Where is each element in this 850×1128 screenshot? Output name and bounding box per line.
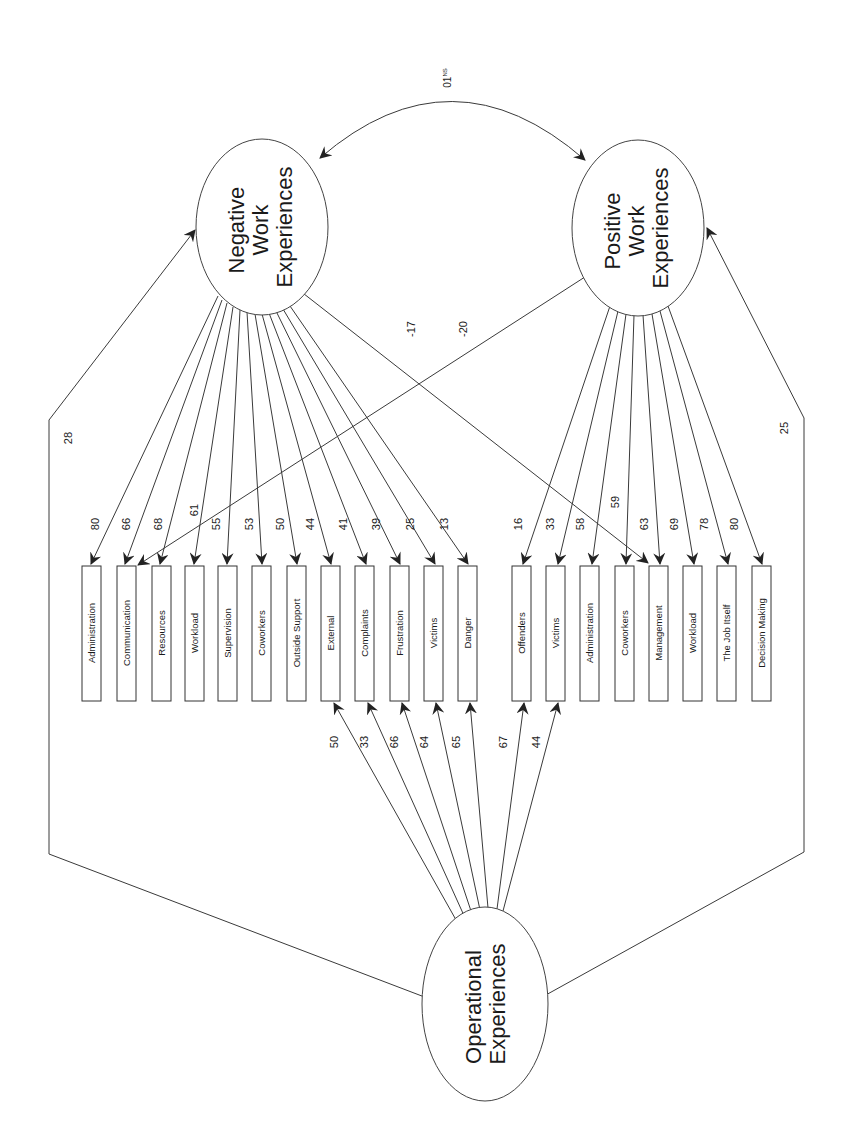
indicator-management: Management63 (638, 518, 668, 701)
svg-text:58: 58 (574, 518, 586, 530)
svg-text:55: 55 (210, 518, 222, 530)
svg-text:Victims: Victims (428, 618, 439, 649)
svg-text:Workload: Workload (687, 613, 698, 653)
svg-text:The Job Itself: The Job Itself (721, 604, 732, 661)
svg-text:66: 66 (120, 518, 132, 530)
svg-text:64: 64 (418, 736, 430, 748)
svg-text:Supervision: Supervision (222, 608, 233, 658)
path-label-28: 28 (62, 432, 74, 444)
svg-text:Communication: Communication (121, 600, 132, 666)
svg-text:Frustration: Frustration (394, 610, 405, 655)
indicator-administration-positive: Administration58 (574, 518, 599, 701)
svg-text:Complaints: Complaints (359, 609, 370, 657)
indicator-offenders: Offenders16 (512, 518, 531, 701)
svg-text:50: 50 (274, 518, 286, 530)
positive-indicators: Offenders16 Victims33 Administration58 C… (512, 496, 771, 701)
cross-loading-label-20: -20 (457, 321, 469, 337)
indicator-the-job-itself: The Job Itself78 (698, 518, 736, 701)
svg-text:25: 25 (404, 518, 416, 530)
svg-text:33: 33 (358, 736, 370, 748)
svg-text:44: 44 (304, 518, 316, 530)
indicator-frustration: Frustration39 (370, 518, 409, 701)
indicator-external: External44 (304, 518, 340, 701)
svg-text:33: 33 (544, 518, 556, 530)
correlation-arc (320, 101, 585, 160)
svg-text:78: 78 (698, 518, 710, 530)
indicator-victims-positive: Victims33 (544, 518, 565, 701)
svg-text:Victims: Victims (550, 618, 561, 649)
svg-text:Decision Making: Decision Making (756, 598, 767, 668)
svg-text:66: 66 (388, 736, 400, 748)
correlation-label: 01NS (442, 68, 453, 87)
svg-text:50: 50 (328, 736, 340, 748)
indicator-communication: Communication66 (117, 518, 136, 701)
svg-text:16: 16 (512, 518, 524, 530)
operational-path-labels: 50 33 66 64 65 67 44 (328, 736, 542, 748)
sem-diagram: 01NS 28 25 -17 -20 (0, 0, 850, 1128)
svg-text:41: 41 (337, 518, 349, 530)
svg-text:Danger: Danger (462, 617, 473, 648)
indicator-coworkers: Coworkers53 (243, 518, 271, 701)
svg-text:80: 80 (89, 518, 101, 530)
svg-text:13: 13 (438, 518, 450, 530)
svg-text:53: 53 (243, 518, 255, 530)
svg-text:68: 68 (152, 518, 164, 530)
indicator-supervision: Supervision55 (210, 518, 237, 701)
negative-indicators: Administration80 Communication66 Resourc… (82, 504, 477, 701)
svg-text:59: 59 (609, 496, 621, 508)
svg-text:63: 63 (638, 518, 650, 530)
svg-text:Resources: Resources (156, 610, 167, 656)
indicator-administration: Administration80 (82, 518, 101, 701)
svg-text:Management: Management (653, 605, 664, 661)
svg-text:39: 39 (370, 518, 382, 530)
svg-text:External: External (325, 616, 336, 651)
cross-loading-label-17: -17 (405, 321, 417, 337)
cross-loading-negative-management (299, 290, 648, 563)
svg-text:65: 65 (450, 736, 462, 748)
svg-text:Administration: Administration (584, 603, 595, 663)
indicator-danger: Danger13 (438, 518, 477, 701)
svg-text:67: 67 (497, 736, 509, 748)
svg-text:80: 80 (728, 518, 740, 530)
svg-text:Coworkers: Coworkers (256, 610, 267, 656)
path-label-25: 25 (778, 422, 790, 434)
indicator-outside-support: Outside Support50 (274, 518, 306, 701)
path-operational-to-negative (49, 230, 435, 1001)
svg-text:Coworkers: Coworkers (619, 610, 630, 656)
svg-text:Outside Support: Outside Support (291, 598, 302, 667)
indicator-workload-positive: Workload69 (668, 518, 702, 701)
indicator-coworkers-positive: Coworkers59 (609, 496, 634, 701)
svg-text:61: 61 (188, 504, 200, 516)
indicator-complaints: Complaints41 (337, 518, 374, 701)
svg-text:Administration: Administration (86, 603, 97, 663)
svg-text:Workload: Workload (189, 613, 200, 653)
svg-text:69: 69 (668, 518, 680, 530)
svg-text:Offenders: Offenders (516, 612, 527, 654)
operational-label: Operational Experiences (461, 943, 510, 1064)
svg-text:44: 44 (530, 736, 542, 748)
